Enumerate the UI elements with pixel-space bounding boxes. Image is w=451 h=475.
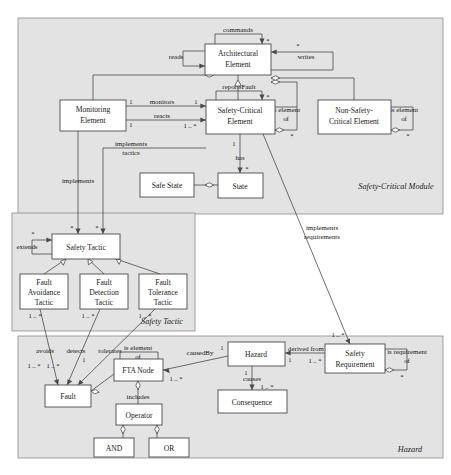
- relation-label-has: has: [235, 154, 245, 161]
- diagram-canvas: Safety-Critical Module Safety Tactic Haz…: [0, 0, 451, 475]
- class-name-fault-tolerance-tactic-line3: Tactic: [154, 298, 173, 307]
- class-safety-critical-element[interactable]: Safety-Critical Element: [206, 100, 275, 134]
- multiplicity-monitors-to: 1: [194, 98, 197, 105]
- package-label-hazard: Hazard: [397, 445, 423, 454]
- multiplicity-extends: *: [31, 230, 34, 237]
- relation-label-derived-from: derived from: [288, 345, 324, 352]
- package-label-safety-critical-module: Safety-Critical Module: [358, 182, 434, 191]
- multiplicity-reacts-to: 1 .. *: [183, 122, 196, 129]
- multiplicity-commands: *: [266, 37, 269, 44]
- class-safe-state[interactable]: Safe State: [140, 173, 194, 197]
- class-name-fault-avoidance-tactic-line1: Fault: [36, 278, 53, 287]
- relation-label-reacts: reacts: [154, 112, 170, 119]
- class-name-architectural-element-line2: Element: [225, 60, 251, 69]
- multiplicity-detects-to: 1 .. *: [46, 362, 59, 369]
- relation-label-implements: implements: [62, 177, 94, 184]
- class-name-architectural-element-line1: Architectural: [218, 49, 258, 58]
- multiplicity-avoids-to: 1 .. *: [27, 362, 40, 369]
- class-name-monitoring-element-line1: Monitoring: [76, 105, 111, 114]
- class-fault-tolerance-tactic[interactable]: Fault Tolerance Tactic: [139, 274, 187, 309]
- multiplicity-implements-requirements-to: 1 .. *: [331, 331, 344, 338]
- relation-label-is-requirement-of-2: of: [404, 357, 410, 364]
- class-non-safety-critical-element[interactable]: Non-Safety- Critical Element: [318, 100, 391, 134]
- relation-label-monitors: monitors: [150, 98, 175, 105]
- multiplicity-has-to: *: [245, 165, 248, 172]
- multiplicity-derived-from-to: 1: [288, 356, 291, 363]
- class-and-node[interactable]: AND: [94, 438, 134, 457]
- relation-label-reads: reads: [169, 53, 184, 60]
- relation-label-is-element-of-sce-2: of: [283, 115, 289, 122]
- class-name-fault-detection-tactic-line1: Fault: [96, 278, 113, 287]
- class-consequence[interactable]: Consequence: [218, 390, 287, 413]
- multiplicity-reports-fault: *: [266, 93, 269, 100]
- relation-label-writes: writes: [298, 53, 315, 60]
- class-fault[interactable]: Fault: [45, 385, 91, 407]
- uml-class-diagram: Safety-Critical Module Safety Tactic Haz…: [0, 0, 451, 475]
- relation-label-is-requirement-of-1: is requirement: [387, 348, 427, 355]
- multiplicity-caused-by-from: 1: [220, 344, 223, 351]
- class-name-hazard: Hazard: [245, 350, 267, 359]
- relation-label-avoids: avoids: [36, 347, 54, 354]
- class-name-fault-tolerance-tactic-line1: Fault: [155, 278, 172, 287]
- class-name-safety-requirement-line2: Requirement: [335, 360, 375, 369]
- relation-label-implements-requirements-2: requirements: [304, 233, 340, 240]
- relation-label-implements-tactics-2: tactics: [122, 149, 140, 156]
- relation-label-commands: commands: [223, 26, 253, 33]
- class-name-consequence: Consequence: [232, 398, 273, 407]
- class-name-or-node: OR: [164, 444, 175, 453]
- class-name-safety-critical-element-line1: Safety-Critical: [218, 106, 263, 115]
- multiplicity-detects-from: 1 .. *: [81, 312, 94, 319]
- multiplicity-implements: *: [70, 224, 73, 231]
- relation-label-tolerates: tolerates: [98, 347, 122, 354]
- class-name-fault-avoidance-tactic-line3: Tactic: [35, 298, 54, 307]
- class-fta-node[interactable]: FTA Node: [114, 359, 163, 381]
- class-name-non-safety-critical-element-line2: Critical Element: [329, 117, 380, 126]
- relation-label-is-element-of-fta-1: is element: [124, 344, 152, 351]
- multiplicity-causes-to: 1 .. *: [260, 383, 273, 390]
- class-name-safety-requirement-line1: Safety: [345, 349, 365, 358]
- class-name-fault-detection-tactic-line3: Tactic: [95, 298, 114, 307]
- multiplicity-tolerates-to: 1: [82, 356, 85, 363]
- class-safety-tactic[interactable]: Safety Tactic: [52, 234, 120, 259]
- multiplicity-is-requirement-of: *: [400, 373, 403, 380]
- relation-label-implements-requirements-1: implements: [306, 224, 338, 231]
- class-operator[interactable]: Operator: [116, 404, 162, 425]
- relation-label-implements-tactics-1: implements: [115, 140, 147, 147]
- relation-label-is-element-of-sce-1: is element: [272, 106, 300, 113]
- class-hazard[interactable]: Hazard: [228, 342, 285, 366]
- multiplicity-monitors-from: 1: [129, 98, 132, 105]
- class-name-safety-critical-element-line2: Element: [227, 117, 253, 126]
- relation-label-extends: extends: [16, 243, 37, 250]
- relation-label-is-element-of-nsce-2: of: [401, 115, 407, 122]
- class-or-node[interactable]: OR: [149, 438, 189, 457]
- class-safety-requirement[interactable]: Safety Requirement: [325, 344, 385, 373]
- multiplicity-tolerates-from: 1 .. *: [138, 312, 151, 319]
- multiplicity-implements-tactics: *: [95, 224, 98, 231]
- class-name-fta-node: FTA Node: [122, 366, 154, 375]
- relation-label-detects: detects: [66, 347, 85, 354]
- class-fault-detection-tactic[interactable]: Fault Detection Tactic: [80, 274, 128, 309]
- relation-label-is-element-of-nsce-1: is element: [390, 106, 418, 113]
- class-name-safe-state: Safe State: [152, 181, 183, 190]
- class-name-non-safety-critical-element-line1: Non-Safety-: [335, 106, 373, 115]
- multiplicity-reacts-from: 1: [129, 121, 132, 128]
- multiplicity-derived-from-from: 1 .. *: [308, 357, 321, 364]
- multiplicity-causes-from: 1: [244, 369, 247, 376]
- multiplicity-is-element-of-sce: *: [290, 132, 293, 139]
- class-monitoring-element[interactable]: Monitoring Element: [60, 100, 126, 131]
- class-name-state: State: [232, 182, 248, 191]
- relation-label-includes: includes: [127, 393, 150, 400]
- class-name-and-node: AND: [106, 444, 123, 453]
- multiplicity-writes: *: [296, 42, 299, 49]
- class-name-fault-tolerance-tactic-line2: Tolerance: [148, 288, 178, 297]
- relation-label-causes: causes: [243, 375, 261, 382]
- class-name-fault-detection-tactic-line2: Detection: [89, 288, 119, 297]
- class-architectural-element[interactable]: Architectural Element: [205, 44, 271, 75]
- class-name-safety-tactic: Safety Tactic: [66, 243, 106, 252]
- class-name-fault-avoidance-tactic-line2: Avoidance: [28, 288, 61, 297]
- multiplicity-avoids-from: 1 .. *: [28, 312, 41, 319]
- multiplicity-has-from: 1: [232, 140, 235, 147]
- class-state[interactable]: State: [218, 173, 263, 198]
- class-fault-avoidance-tactic[interactable]: Fault Avoidance Tactic: [20, 274, 68, 309]
- multiplicity-caused-by-to: 1 .. *: [169, 375, 182, 382]
